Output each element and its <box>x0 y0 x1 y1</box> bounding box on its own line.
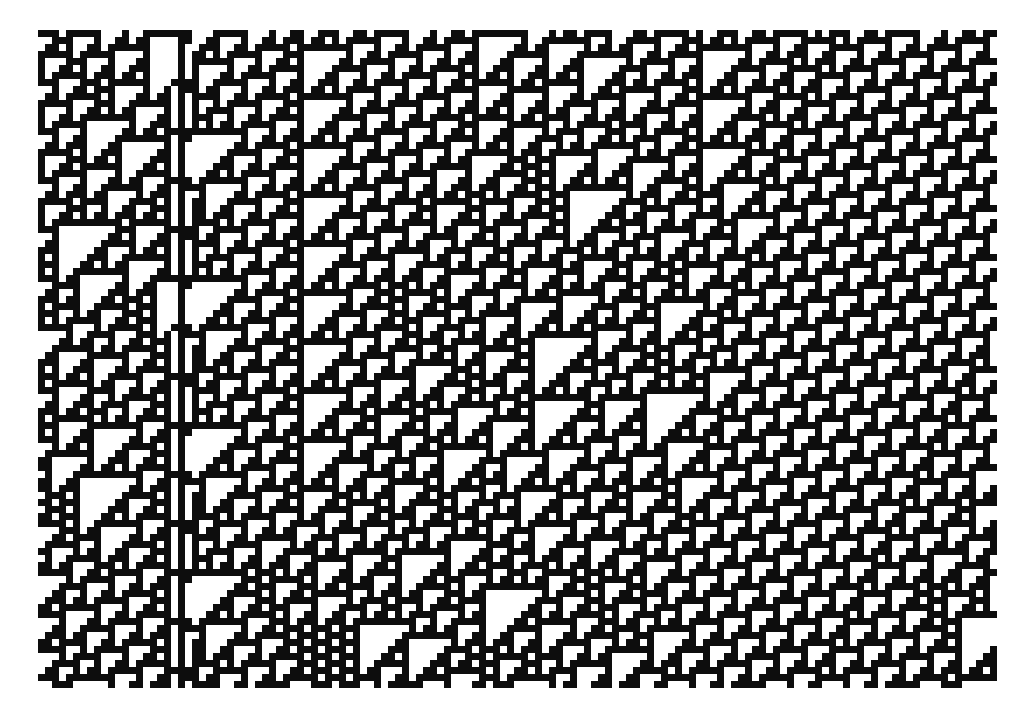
cellular-automaton-stage <box>0 0 1034 715</box>
cellular-automaton-canvas <box>38 30 997 688</box>
